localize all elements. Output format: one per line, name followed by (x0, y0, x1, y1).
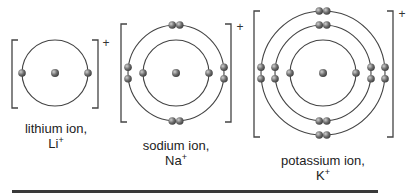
electron (271, 75, 279, 83)
ion-formula: Li+ (25, 136, 87, 151)
nucleus (51, 69, 59, 77)
ion-name: potassium ion, (281, 153, 365, 168)
nucleus (319, 69, 327, 77)
charge-sign: + (398, 7, 405, 21)
ion-label-potassium: potassium ion,K+ (281, 153, 365, 183)
bottom-rule (12, 190, 378, 193)
ion-symbol: Na (165, 153, 182, 168)
charge-sign: + (102, 36, 109, 50)
electron (323, 7, 331, 15)
ion-label-sodium: sodium ion,Na+ (143, 138, 209, 168)
electron (220, 63, 228, 71)
ion-name: sodium ion, (143, 138, 209, 153)
ion-symbol: Li (48, 136, 58, 151)
electron (352, 69, 360, 77)
ions-layer: +++ (12, 7, 406, 139)
electron (176, 21, 184, 29)
right-bracket (225, 24, 231, 122)
electron (139, 69, 147, 77)
electron (168, 21, 176, 29)
electron (315, 7, 323, 15)
ion-sodium: + (121, 20, 244, 125)
electron (176, 117, 184, 125)
electron (124, 63, 132, 71)
electron (124, 75, 132, 83)
right-bracket (387, 11, 393, 137)
electron (220, 75, 228, 83)
ion-formula: Na+ (143, 153, 209, 168)
electron (367, 63, 375, 71)
electron (367, 75, 375, 83)
electron (257, 75, 265, 83)
electron (286, 69, 294, 77)
ion-charge: + (58, 135, 63, 145)
electron (315, 21, 323, 29)
electron (257, 63, 265, 71)
electron (271, 63, 279, 71)
electron (381, 75, 389, 83)
right-bracket (92, 40, 98, 108)
electron (168, 117, 176, 125)
electron (323, 117, 331, 125)
electron (381, 63, 389, 71)
electron (84, 69, 92, 77)
ion-lithium: + (12, 36, 110, 108)
electron (323, 21, 331, 29)
ion-symbol: K (316, 168, 325, 183)
left-bracket (254, 11, 260, 137)
electron (205, 69, 213, 77)
charge-sign: + (236, 20, 243, 34)
ion-potassium: + (254, 7, 406, 139)
ion-name: lithium ion, (25, 121, 87, 136)
electron (18, 69, 26, 77)
electron (315, 117, 323, 125)
left-bracket (121, 24, 127, 122)
nucleus (172, 69, 180, 77)
ion-charge: + (325, 167, 330, 177)
electron (315, 131, 323, 139)
ion-label-lithium: lithium ion,Li+ (25, 121, 87, 151)
electron (323, 131, 331, 139)
ion-formula: K+ (281, 168, 365, 183)
ion-charge: + (182, 152, 187, 162)
left-bracket (12, 40, 18, 108)
